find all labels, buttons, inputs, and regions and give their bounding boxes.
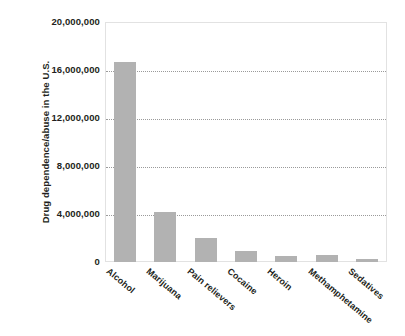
y-axis-tick-label: 4,000,000 [4, 209, 100, 219]
y-axis-tick-label: 12,000,000 [4, 113, 100, 123]
bar [154, 212, 176, 262]
x-axis-tick-labels: AlcoholMarijuanaPain relieversCocaineHer… [105, 262, 387, 336]
bar [235, 251, 257, 262]
bar [195, 238, 217, 262]
bar-chart: Drug dependence/abuse in the U.S. 04,000… [0, 0, 405, 336]
y-axis-tick-label: 8,000,000 [4, 161, 100, 171]
x-axis-tick-label: Cocaine [226, 266, 260, 297]
x-axis-tick-label: Alcohol [105, 266, 137, 295]
x-axis-tick-label: Heroin [266, 266, 295, 292]
bar [316, 255, 338, 262]
y-axis-tick-labels: 04,000,0008,000,00012,000,00016,000,0002… [0, 22, 100, 262]
x-axis-tick-label: Marijuana [145, 266, 184, 301]
x-axis-tick-label: Sedatives [346, 266, 385, 301]
y-axis-tick-label: 0 [4, 257, 100, 267]
bar [114, 62, 136, 262]
y-axis-tick-label: 20,000,000 [4, 17, 100, 27]
bars-layer [105, 22, 387, 262]
y-axis-tick-label: 16,000,000 [4, 65, 100, 75]
